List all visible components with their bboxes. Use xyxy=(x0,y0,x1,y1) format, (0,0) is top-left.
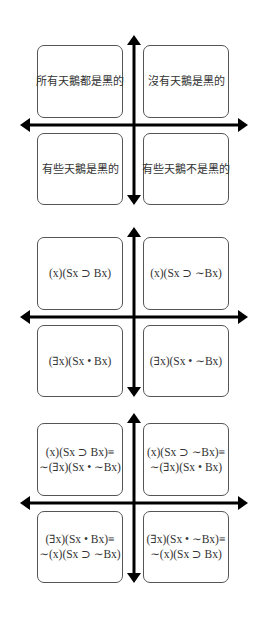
axes-arrows-icon xyxy=(0,33,266,209)
diagram-chinese: 所有天鵝都是黑的 沒有天鵝是黑的 有些天鵝是黑的 有些天鵝不是黑的 xyxy=(0,33,266,209)
axes-arrows-icon xyxy=(0,411,266,587)
diagram-symbolic: (x)(Sx ⊃ Bx) (x)(Sx ⊃ ∼Bx) (∃x)(Sx • Bx)… xyxy=(0,225,266,401)
axes-arrows-icon xyxy=(0,225,266,401)
diagram-equivalences: (x)(Sx ⊃ Bx)≡ ∼(∃x)(Sx • ∼Bx) (x)(Sx ⊃ ∼… xyxy=(0,411,266,587)
